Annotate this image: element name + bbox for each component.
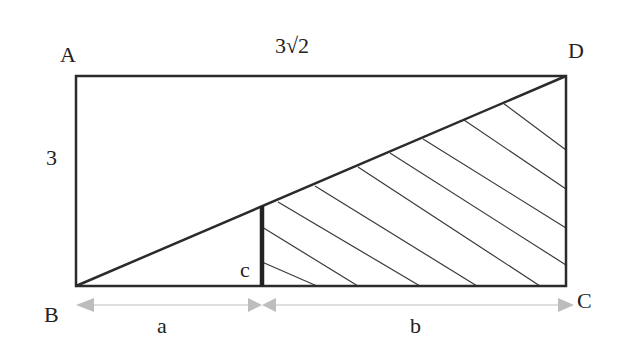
bottom-part-b-label: b — [410, 313, 421, 338]
vertex-label-b: B — [44, 302, 59, 327]
geometry-diagram: A D B C 3√2 3 c a b — [0, 0, 619, 346]
segment-c-label: c — [240, 257, 250, 282]
arrowhead-a-right — [248, 298, 262, 312]
vertex-label-c: C — [577, 288, 592, 313]
top-side-length: 3√2 — [275, 33, 309, 58]
arrowhead-left — [76, 298, 94, 312]
bottom-part-a-label: a — [157, 313, 167, 338]
arrowhead-b-left — [262, 298, 276, 312]
dimension-arrows — [76, 298, 574, 312]
vertex-label-d: D — [568, 38, 584, 63]
arrowhead-right — [558, 298, 574, 312]
left-side-length: 3 — [46, 145, 57, 170]
hatch-lines — [262, 103, 566, 286]
vertex-label-a: A — [60, 42, 76, 67]
